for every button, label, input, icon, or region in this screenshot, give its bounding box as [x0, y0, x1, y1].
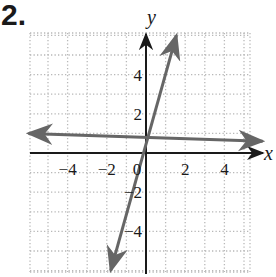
axes — [30, 34, 263, 274]
y-tick-label: −2 — [124, 183, 142, 202]
x-tick-label: 0 — [133, 160, 142, 179]
coordinate-plane: −4−2024−4−224xy — [0, 0, 276, 277]
y-tick-label: 2 — [134, 105, 143, 124]
y-tick-label: −4 — [124, 222, 143, 241]
y-axis-label: y — [145, 6, 156, 29]
y-tick-label: 4 — [134, 66, 143, 85]
x-tick-label: 2 — [181, 160, 190, 179]
x-axis-label: x — [263, 142, 273, 164]
x-tick-label: −2 — [98, 160, 116, 179]
x-tick-label: 4 — [220, 160, 229, 179]
x-tick-label: −4 — [59, 160, 78, 179]
tick-labels: −4−2024−4−224xy — [59, 6, 273, 241]
